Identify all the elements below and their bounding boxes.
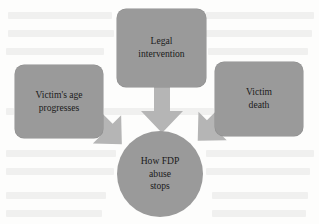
node-legal-intervention: Legal intervention [117,9,206,87]
diagram-canvas: Legal intervention Victim's age progress… [0,0,319,224]
node-victim-death-label: Victim death [242,86,276,112]
node-legal-intervention-label: Legal intervention [134,35,188,61]
node-victim-death: Victim death [215,62,303,136]
arrow-legal-to-outcome [139,84,185,134]
node-victims-age-progresses: Victim's age progresses [15,65,103,138]
node-victims-age-progresses-label: Victim's age progresses [31,89,86,115]
node-how-fdp-abuse-stops: How FDP abuse stops [117,131,203,217]
node-how-fdp-abuse-stops-label: How FDP abuse stops [137,155,184,194]
